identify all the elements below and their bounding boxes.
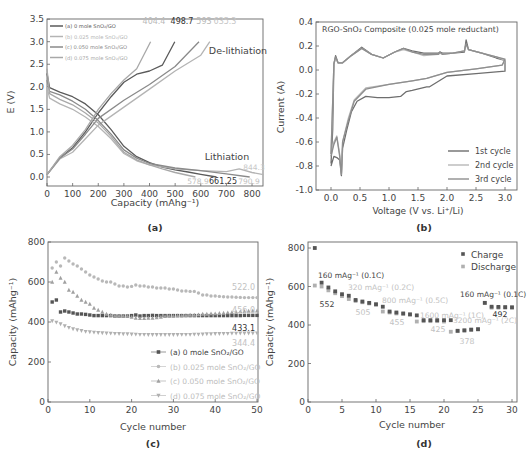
square-marker xyxy=(449,330,453,334)
x-tick-label: 700 xyxy=(218,189,235,199)
legend-label: (a) 0 mole SnO₂/GO xyxy=(65,23,116,29)
delithiation-curve xyxy=(47,42,175,175)
triangle-down-marker xyxy=(209,332,213,336)
square-marker xyxy=(490,305,494,309)
y-tick-label: 0 xyxy=(299,397,305,407)
rate-annotation: 492 xyxy=(493,310,508,319)
triangle-up-marker xyxy=(226,310,230,314)
triangle-down-marker xyxy=(163,333,167,337)
y-tick-label: 800 xyxy=(288,243,305,253)
triangle-down-marker xyxy=(134,333,138,337)
y-tick-label: -0.2 xyxy=(295,89,313,99)
panel-c-cycling-chart: 010203040500200400600800(a) 0 mole SnO₂/… xyxy=(7,237,263,449)
y-tick-label: -0.6 xyxy=(295,137,313,147)
triangle-up-marker xyxy=(209,311,213,315)
circle-marker xyxy=(214,294,217,297)
x-tick-label: 20 xyxy=(438,405,450,415)
triangle-down-marker xyxy=(226,332,230,336)
square-marker xyxy=(320,281,324,285)
x-tick-label: 0 xyxy=(305,405,311,415)
square-marker xyxy=(88,313,91,316)
rate-annotation: 455 xyxy=(390,318,405,327)
triangle-down-marker xyxy=(50,319,54,323)
square-marker xyxy=(497,305,501,309)
circle-marker xyxy=(122,284,125,287)
square-marker xyxy=(63,309,66,312)
circle-marker xyxy=(155,286,158,289)
panel-label: (c) xyxy=(146,438,160,449)
circle-marker xyxy=(176,288,179,291)
circle-marker xyxy=(92,275,95,278)
triangle-down-marker xyxy=(63,324,67,328)
circle-marker xyxy=(117,284,120,287)
panel-label: (a) xyxy=(147,222,162,233)
rate-annotation: 800 mAg⁻¹ (0.5C) xyxy=(382,296,448,305)
rate-annotation: 378 xyxy=(460,337,475,346)
y-tick-label: -0.8 xyxy=(295,161,313,171)
y-tick-label: -0.4 xyxy=(295,113,313,123)
lithiation-curve xyxy=(47,73,217,177)
circle-marker xyxy=(188,290,191,293)
triangle-up-marker xyxy=(88,302,92,306)
triangle-down-marker xyxy=(125,332,129,336)
triangle-up-marker xyxy=(222,311,226,315)
circle-marker xyxy=(126,285,129,288)
square-marker xyxy=(469,328,473,332)
square-marker xyxy=(76,312,79,315)
square-marker xyxy=(55,298,58,301)
circle-marker xyxy=(76,264,79,267)
x-tick-label: 25 xyxy=(472,405,483,415)
circle-marker xyxy=(50,266,53,269)
square-marker xyxy=(374,302,378,306)
square-marker xyxy=(59,310,62,313)
y-tick-label: 1.5 xyxy=(30,104,44,114)
x-axis-label: Voltage (V vs. Li⁺/Li) xyxy=(372,206,463,216)
legend-label: (c) 0.050 mole SnO₂/GO xyxy=(65,44,127,50)
circle-marker xyxy=(239,296,242,299)
square-marker xyxy=(347,297,351,301)
square-marker xyxy=(313,284,317,288)
rate-annotation: 552 xyxy=(320,300,335,309)
square-marker xyxy=(84,313,87,316)
square-marker xyxy=(381,305,385,309)
triangle-down-marker xyxy=(88,330,92,334)
square-marker xyxy=(226,314,229,317)
x-axis-label: Capacity (mAhg⁻¹) xyxy=(111,197,200,208)
circle-marker xyxy=(109,280,112,283)
y-tick-label: 800 xyxy=(28,237,45,247)
y-tick-label: 0.2 xyxy=(299,41,313,51)
circle-marker xyxy=(234,296,237,299)
legend-label: (d) 0.075 mole SnO₂/GO xyxy=(170,392,261,401)
circle-marker xyxy=(138,284,141,287)
circle-marker xyxy=(134,283,137,286)
square-marker xyxy=(503,305,507,309)
triangle-down-marker xyxy=(59,322,63,326)
triangle-down-marker xyxy=(54,321,58,325)
x-tick-label: 200 xyxy=(90,189,107,199)
x-tick-label: 2.5 xyxy=(469,193,483,203)
circle-marker xyxy=(251,296,254,299)
circle-marker xyxy=(84,270,87,273)
triangle-down-marker xyxy=(121,332,125,336)
triangle-down-marker xyxy=(213,332,217,336)
y-tick-label: 0.5 xyxy=(30,149,44,159)
triangle-up-marker xyxy=(217,311,221,315)
square-marker xyxy=(415,313,419,317)
circle-marker xyxy=(209,294,212,297)
triangle-down-marker xyxy=(196,333,200,337)
x-tick-label: 1.0 xyxy=(382,193,397,203)
triangle-down-marker xyxy=(109,332,113,336)
triangle-down-marker xyxy=(188,333,192,337)
circle-marker xyxy=(172,287,175,290)
y-tick-label: 600 xyxy=(28,277,45,287)
triangle-down-marker xyxy=(67,326,71,330)
x-tick-label: 800 xyxy=(243,189,260,199)
value-label: 844.3 xyxy=(243,163,265,172)
triangle-down-marker xyxy=(130,333,134,337)
circle-marker xyxy=(193,290,196,293)
square-marker xyxy=(361,300,365,304)
y-tick-label: 2.5 xyxy=(30,59,44,69)
y-tick-label: 0.0 xyxy=(30,172,45,182)
circle-marker xyxy=(197,291,200,294)
circle-marker xyxy=(105,280,108,283)
